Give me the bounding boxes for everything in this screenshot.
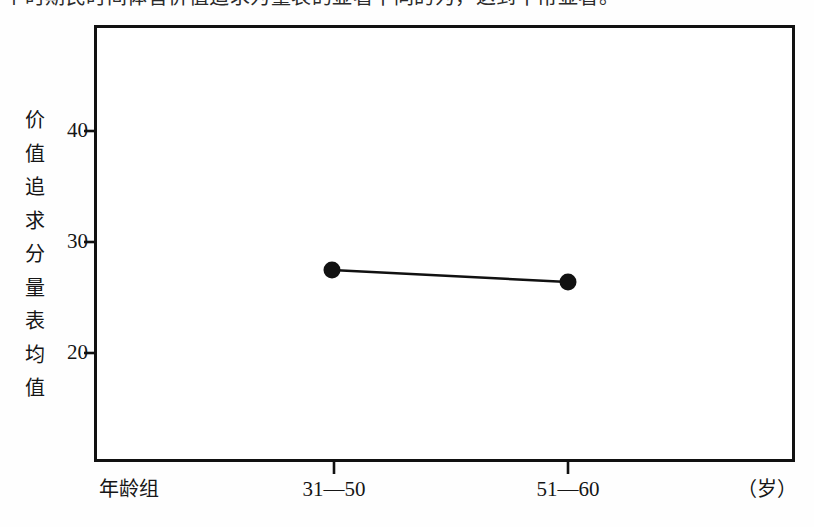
x-tick-label-31-50: 31—50 [303, 478, 366, 500]
y-tick-label-20: 20 [46, 342, 88, 363]
page-canvas: 个时期民时间体音价值追求为量表的显著不同的为，这到不常显著。 价 值 追 求 分… [0, 0, 814, 527]
y-tick-label-30: 30 [46, 231, 88, 252]
x-axis-title: 年龄组 [99, 478, 159, 500]
x-tick-label-51-60: 51—60 [537, 478, 600, 500]
cut-off-text-content: 个时期民时间体音价值追求为量表的显著不同的为，这到不常显著。 [4, 0, 619, 10]
plot-frame [94, 25, 795, 462]
cut-off-text-line: 个时期民时间体音价值追求为量表的显著不同的为，这到不常显著。 [0, 0, 814, 16]
y-axis-tick-labels: 40 30 20 [36, 0, 88, 527]
x-axis-ticks [334, 462, 568, 474]
x-axis-unit-label: （岁） [737, 478, 797, 500]
y-tick-label-40: 40 [46, 120, 88, 141]
